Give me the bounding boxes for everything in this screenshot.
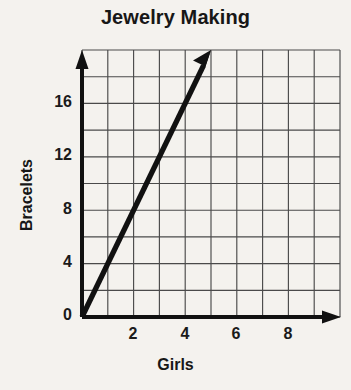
y-axis-arrowhead xyxy=(76,50,89,69)
gridlines xyxy=(82,50,340,317)
plot-area-svg xyxy=(0,0,351,390)
data-line-arrowhead xyxy=(193,50,211,67)
chart-canvas: Jewelry Making Bracelets Girls 0 4 8 12 … xyxy=(0,0,351,390)
axes xyxy=(76,50,342,324)
x-axis-arrowhead xyxy=(322,311,341,324)
